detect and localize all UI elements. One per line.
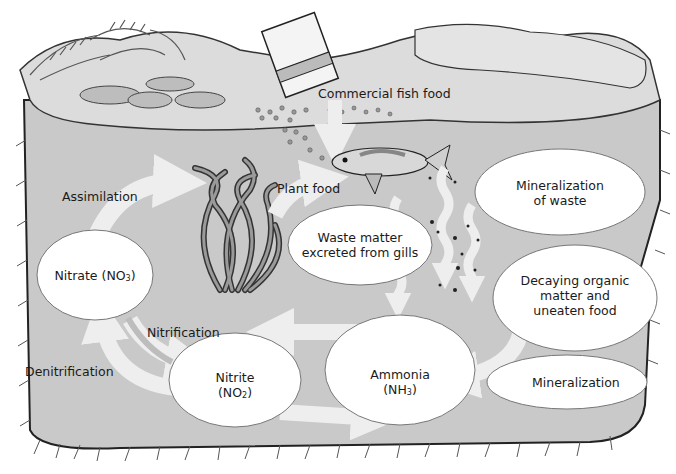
nitrite-formula: (NO2) — [195, 385, 275, 403]
decaying-line2: matter and — [515, 288, 635, 303]
mineralization-waste-line1: Mineralization — [500, 178, 620, 193]
nitrogen-cycle-diagram: Commercial fish food Plant food Assimila… — [0, 0, 676, 474]
waste-gills-line2: excreted from gills — [290, 245, 430, 260]
label-nitrite: Nitrite (NO2) — [195, 370, 275, 403]
label-ammonia: Ammonia (NH3) — [345, 367, 455, 400]
ammonia-formula: (NH3) — [345, 382, 455, 400]
label-plant-food: Plant food — [277, 181, 340, 196]
label-decaying-organic-matter: Decaying organic matter and uneaten food — [515, 273, 635, 318]
label-commercial-fish-food: Commercial fish food — [318, 86, 451, 101]
label-mineralization: Mineralization — [532, 375, 620, 390]
label-nitrification: Nitrification — [147, 325, 220, 340]
label-waste-gills: Waste matter excreted from gills — [290, 230, 430, 260]
label-assimilation: Assimilation — [62, 189, 138, 204]
label-denitrification: Denitrification — [25, 364, 114, 379]
waste-gills-line1: Waste matter — [290, 230, 430, 245]
decaying-line3: uneaten food — [515, 303, 635, 318]
nitrate-close: ) — [131, 268, 136, 283]
nitrite-close: ) — [247, 385, 252, 400]
ammonia-close: ) — [412, 382, 417, 397]
label-mineralization-of-waste: Mineralization of waste — [500, 178, 620, 208]
nitrite-line1: Nitrite — [195, 370, 275, 385]
nitrate-text: Nitrate (NO — [54, 268, 125, 283]
ammonia-line1: Ammonia — [345, 367, 455, 382]
ammonia-open: (NH — [383, 382, 407, 397]
decaying-line1: Decaying organic — [515, 273, 635, 288]
mineralization-waste-line2: of waste — [500, 193, 620, 208]
nitrite-open: (NO — [218, 385, 242, 400]
label-nitrate: Nitrate (NO3) — [45, 268, 145, 286]
